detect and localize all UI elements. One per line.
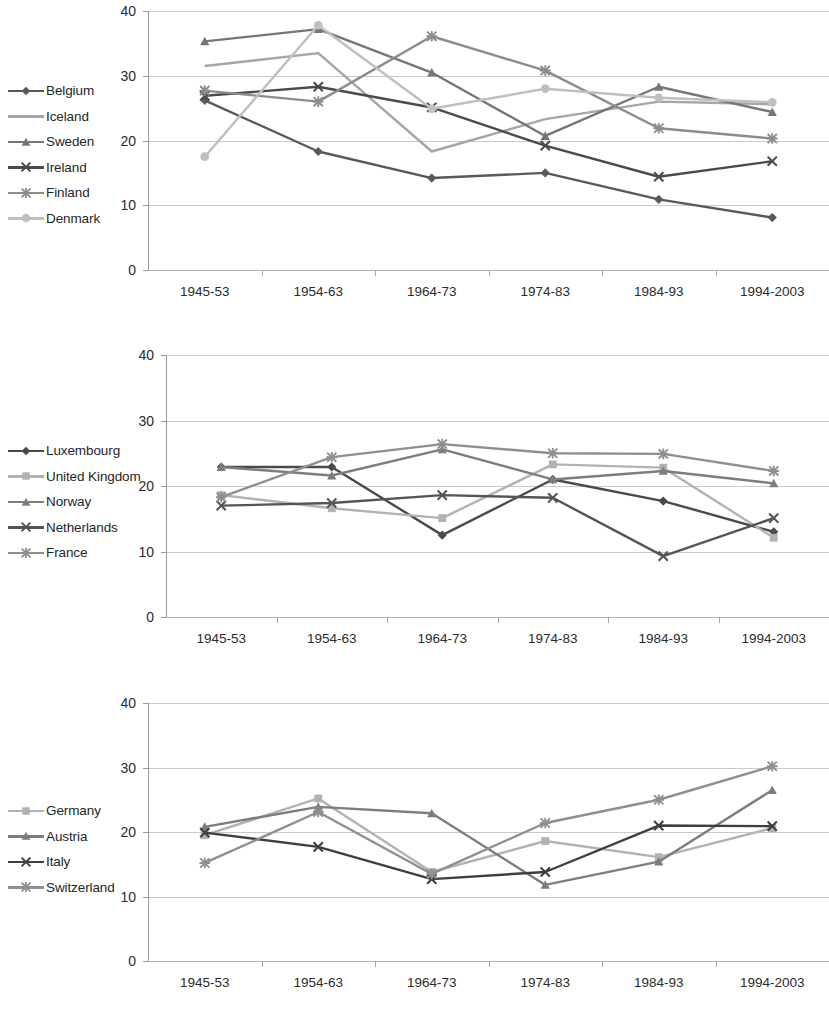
legend-item-austria[interactable]: Austria bbox=[8, 824, 115, 850]
data-point-marker bbox=[768, 213, 777, 222]
data-point-marker bbox=[22, 497, 31, 505]
y-axis-tick bbox=[161, 617, 166, 618]
y-axis-tick-label: 10 bbox=[106, 889, 136, 905]
legend-item-germany[interactable]: Germany bbox=[8, 798, 115, 824]
legend-label: Italy bbox=[46, 849, 70, 875]
legend-item-france[interactable]: France bbox=[8, 540, 141, 566]
series-sweden bbox=[200, 25, 777, 140]
chart-3-panel: GermanyAustriaItalySwitzerland0102030401… bbox=[0, 686, 829, 1016]
data-point-marker bbox=[654, 195, 663, 204]
legend-triangle-marker-icon bbox=[8, 830, 44, 842]
data-point-marker bbox=[770, 534, 778, 542]
x-axis-tick-label: 1945-53 bbox=[180, 975, 230, 990]
legend-item-luxembourg[interactable]: Luxembourg bbox=[8, 438, 141, 464]
data-point-marker bbox=[549, 460, 557, 468]
data-point-marker bbox=[22, 137, 31, 145]
y-axis-tick-label: 0 bbox=[124, 609, 154, 625]
legend-item-denmark[interactable]: Denmark bbox=[8, 206, 100, 232]
legend-label: Iceland bbox=[46, 104, 89, 130]
x-axis-tick bbox=[375, 270, 376, 276]
legend-square-marker-icon bbox=[8, 470, 44, 482]
data-point-marker bbox=[427, 104, 436, 113]
y-axis-tick-label: 20 bbox=[124, 478, 154, 494]
x-axis-tick bbox=[602, 961, 603, 967]
legend-item-finland[interactable]: Finland bbox=[8, 180, 100, 206]
chart-2-legend: LuxembourgUnited KingdomNorwayNetherland… bbox=[8, 438, 141, 566]
chart-3-plot-area: 0102030401945-531954-631964-731974-83198… bbox=[148, 703, 829, 961]
x-axis-tick-label: 1974-83 bbox=[520, 284, 570, 299]
chart-1-plot-area: 0102030401945-531954-631964-731974-83198… bbox=[148, 11, 829, 270]
y-axis-tick bbox=[143, 270, 148, 271]
legend-label: Belgium bbox=[46, 78, 94, 104]
chart-3-legend: GermanyAustriaItalySwitzerland bbox=[8, 798, 115, 900]
data-point-marker bbox=[21, 882, 31, 892]
data-point-marker bbox=[653, 123, 664, 134]
x-axis-tick bbox=[277, 617, 278, 623]
data-point-marker bbox=[540, 818, 551, 829]
legend-item-italy[interactable]: Italy bbox=[8, 849, 115, 875]
x-axis-tick-label: 1994-2003 bbox=[740, 284, 805, 299]
legend-item-netherlands[interactable]: Netherlands bbox=[8, 515, 141, 541]
data-point-marker bbox=[426, 869, 437, 880]
legend-item-switzerland[interactable]: Switzerland bbox=[8, 875, 115, 901]
x-axis-tick-label: 1964-73 bbox=[407, 284, 457, 299]
data-point-marker bbox=[768, 98, 777, 107]
data-point-marker bbox=[658, 449, 669, 460]
legend-circle-marker-icon bbox=[8, 212, 44, 224]
series-denmark bbox=[200, 21, 776, 161]
legend-item-sweden[interactable]: Sweden bbox=[8, 129, 100, 155]
data-point-marker bbox=[21, 548, 31, 558]
legend-triangle-marker-icon bbox=[8, 136, 44, 148]
x-axis-tick-label: 1994-2003 bbox=[741, 631, 806, 646]
x-axis-tick bbox=[489, 270, 490, 276]
series-netherlands bbox=[217, 491, 779, 561]
legend-diamond-marker-icon bbox=[8, 85, 44, 97]
series-belgium bbox=[200, 96, 777, 222]
legend-item-united-kingdom[interactable]: United Kingdom bbox=[8, 464, 141, 490]
legend-cross-marker-icon bbox=[8, 521, 44, 533]
y-axis-tick bbox=[143, 961, 148, 962]
legend-item-iceland[interactable]: Iceland bbox=[8, 104, 100, 130]
data-point-marker bbox=[437, 439, 448, 450]
data-point-marker bbox=[541, 168, 550, 177]
series-switzerland bbox=[199, 761, 777, 879]
y-axis-tick-label: 0 bbox=[106, 953, 136, 969]
legend-none-marker-icon bbox=[8, 110, 44, 122]
legend-label: France bbox=[46, 540, 87, 566]
x-axis-tick-label: 1945-53 bbox=[196, 631, 246, 646]
x-axis-tick-label: 1984-93 bbox=[634, 975, 684, 990]
x-axis-tick-label: 1954-63 bbox=[307, 631, 357, 646]
x-axis-tick-label: 1994-2003 bbox=[740, 975, 805, 990]
legend-item-belgium[interactable]: Belgium bbox=[8, 78, 100, 104]
data-point-marker bbox=[314, 147, 323, 156]
x-axis-tick bbox=[262, 270, 263, 276]
legend-label: Luxembourg bbox=[46, 438, 120, 464]
x-axis-tick-label: 1954-63 bbox=[293, 284, 343, 299]
chart-3-series-layer bbox=[148, 703, 829, 961]
legend-asterisk-marker-icon bbox=[8, 547, 44, 559]
legend-triangle-marker-icon bbox=[8, 496, 44, 508]
y-axis-tick-label: 20 bbox=[106, 133, 136, 149]
x-axis-tick bbox=[602, 270, 603, 276]
data-point-marker bbox=[547, 448, 558, 459]
data-point-marker bbox=[313, 96, 324, 107]
data-point-marker bbox=[22, 86, 31, 95]
legend-label: Switzerland bbox=[46, 875, 115, 901]
data-point-marker bbox=[654, 93, 663, 102]
data-point-marker bbox=[438, 514, 446, 522]
y-axis-tick-label: 10 bbox=[106, 197, 136, 213]
data-point-marker bbox=[767, 761, 778, 772]
x-axis-tick bbox=[375, 961, 376, 967]
y-axis-tick-label: 10 bbox=[124, 544, 154, 560]
x-axis-tick bbox=[608, 617, 609, 623]
data-point-marker bbox=[427, 173, 436, 182]
chart-2-series-layer bbox=[166, 355, 829, 617]
multi-line-chart-figure: BelgiumIcelandSwedenIrelandFinlandDenmar… bbox=[0, 0, 829, 1016]
x-axis-tick bbox=[489, 961, 490, 967]
legend-item-norway[interactable]: Norway bbox=[8, 489, 141, 515]
data-point-marker bbox=[199, 858, 210, 869]
x-axis-tick-label: 1964-73 bbox=[407, 975, 457, 990]
data-point-marker bbox=[22, 446, 31, 455]
y-axis-tick-label: 20 bbox=[106, 824, 136, 840]
legend-item-ireland[interactable]: Ireland bbox=[8, 155, 100, 181]
